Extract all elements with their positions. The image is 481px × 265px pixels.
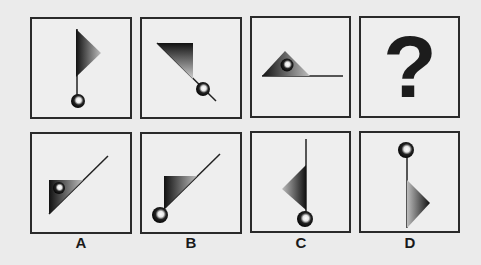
option-label-b[interactable]: B — [141, 234, 241, 251]
option-label-a[interactable]: A — [31, 234, 131, 251]
puzzle-stage: ? A B C D — [0, 0, 481, 265]
option-label-c[interactable]: C — [251, 234, 351, 251]
question-mark: ? — [361, 18, 459, 116]
option-label-d[interactable]: D — [360, 234, 460, 251]
